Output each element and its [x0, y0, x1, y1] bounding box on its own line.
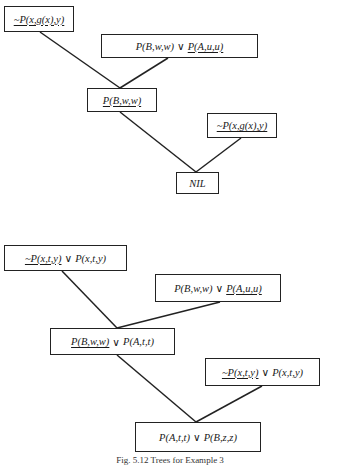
or-operator: ∨ [64, 252, 72, 264]
edge-t3-t5 [120, 112, 196, 172]
edge-b2-b3 [117, 302, 220, 328]
or-operator: ∨ [177, 40, 185, 52]
or-operator: ∨ [193, 431, 201, 443]
nil-label: NIL [189, 178, 205, 189]
node-b5-clause: P(A,t,t) ∨ P(B,z,z) [135, 422, 261, 452]
node-t4-clause: ~P(x,g(x),y) [207, 113, 277, 138]
tree-edges [0, 0, 340, 465]
or-operator: ∨ [216, 282, 224, 294]
node-b1-clause: ~P(x,t,y) ∨ P(x,t,y) [4, 245, 127, 271]
literal: ~P(x,g(x),y) [14, 14, 65, 25]
literal: P(A,t,t) [159, 432, 190, 443]
literal: P(x,t,y) [75, 253, 106, 264]
literal: P(A,t,t) [123, 336, 154, 347]
node-b2-clause: P(B,w,w) ∨ P(A,u,u) [155, 274, 281, 302]
literal: P(A,u,u) [188, 41, 224, 52]
literal: P(x,t,y) [272, 367, 303, 378]
edge-b4-b5 [196, 386, 262, 422]
figure-caption: Fig. 5.12 Trees for Example 3 [0, 455, 340, 465]
edge-b3-b5 [117, 355, 196, 422]
edge-t2-t3 [120, 58, 168, 88]
node-t5-nil: NIL [176, 172, 219, 194]
literal: ~P(x,g(x),y) [217, 120, 268, 131]
node-t2-clause: P(B,w,w) ∨ P(A,u,u) [101, 34, 258, 58]
literal: P(B,z,z) [204, 432, 237, 443]
node-t1-clause: ~P(x,g(x),y) [4, 6, 74, 32]
node-b3-clause: P(B,w,w) ∨ P(A,t,t) [50, 328, 175, 355]
edge-t4-t5 [196, 138, 241, 172]
literal: P(B,w,w) [71, 336, 109, 347]
or-operator: ∨ [261, 366, 269, 378]
literal: P(B,w,w) [136, 41, 174, 52]
edge-b1-b3 [62, 271, 117, 328]
literal: P(B,w,w) [103, 95, 141, 106]
literal: P(B,w,w) [174, 283, 212, 294]
literal: ~P(x,t,y) [25, 253, 62, 264]
literal: ~P(x,t,y) [222, 367, 259, 378]
node-b4-clause: ~P(x,t,y) ∨ P(x,t,y) [205, 358, 320, 386]
node-t3-clause: P(B,w,w) [87, 88, 157, 112]
or-operator: ∨ [112, 336, 120, 348]
literal: P(A,u,u) [226, 283, 262, 294]
